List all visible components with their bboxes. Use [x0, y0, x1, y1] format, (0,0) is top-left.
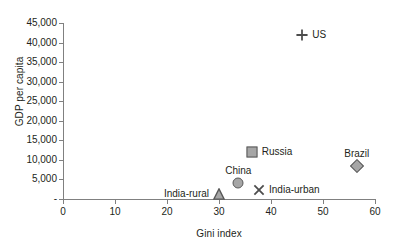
y-tick-label: 40,000	[1, 38, 57, 48]
x-tick	[219, 200, 220, 204]
y-tick	[59, 43, 63, 44]
y-axis-line	[63, 23, 64, 200]
x-tick-label: 0	[43, 206, 83, 217]
y-tick	[59, 62, 63, 63]
y-tick-label: 30,000	[1, 77, 57, 87]
x-tick	[167, 200, 168, 204]
data-point-label-india-rural: India-rural	[164, 188, 209, 199]
data-point-label-india-urban: India-urban	[269, 184, 320, 195]
y-tick-label: 35,000	[1, 57, 57, 67]
data-point-label-brazil: Brazil	[344, 148, 369, 159]
y-tick	[59, 121, 63, 122]
y-tick-label: 15,000	[1, 135, 57, 145]
data-point-label-china: China	[225, 165, 251, 176]
x-axis-title: Gini index	[63, 228, 375, 239]
data-point-marker-china[interactable]	[233, 177, 244, 188]
x-tick-label: 50	[303, 206, 343, 217]
data-point-label-russia: Russia	[262, 146, 293, 157]
data-point-label-us: US	[312, 29, 326, 40]
y-tick	[59, 101, 63, 102]
y-tick	[59, 140, 63, 141]
y-tick-label: 25,000	[1, 96, 57, 106]
y-tick-label: 10,000	[1, 155, 57, 165]
data-point-marker-brazil[interactable]	[350, 159, 364, 173]
y-tick	[59, 82, 63, 83]
x-tick	[63, 200, 64, 204]
x-tick-label: 60	[355, 206, 395, 217]
y-tick-label: 20,000	[1, 116, 57, 126]
y-tick	[59, 199, 63, 200]
data-point-marker-us[interactable]	[296, 28, 309, 41]
scatter-chart: 0102030405060-5,00010,00015,00020,00025,…	[0, 0, 397, 246]
x-tick	[323, 200, 324, 204]
y-tick-label: 5,000	[1, 174, 57, 184]
x-tick-label: 20	[147, 206, 187, 217]
x-tick	[271, 200, 272, 204]
y-tick	[59, 160, 63, 161]
y-axis-title: GDP per capita	[14, 32, 25, 152]
y-tick	[59, 179, 63, 180]
data-point-marker-russia[interactable]	[246, 147, 257, 158]
data-point-marker-india-urban[interactable]	[253, 184, 266, 197]
data-point-marker-india-rural[interactable]	[213, 188, 226, 200]
x-tick-label: 30	[199, 206, 239, 217]
x-tick-label: 10	[95, 206, 135, 217]
y-tick-label: 45,000	[1, 18, 57, 28]
y-tick	[59, 23, 63, 24]
x-tick	[115, 200, 116, 204]
x-tick	[375, 200, 376, 204]
y-tick-label: -	[1, 194, 57, 204]
x-tick-label: 40	[251, 206, 291, 217]
